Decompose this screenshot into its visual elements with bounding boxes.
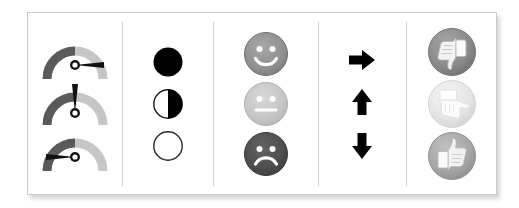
circle-full-icon	[151, 45, 185, 79]
column-arrows	[318, 13, 406, 194]
thumb-side[interactable]	[426, 78, 478, 130]
thumb-up[interactable]	[426, 130, 478, 182]
screenshot-stage	[0, 0, 519, 208]
column-thumbs	[406, 13, 498, 194]
column-faces	[213, 13, 318, 194]
thumb-down[interactable]	[426, 26, 478, 78]
thumb-down-icon	[426, 26, 478, 78]
arrow-down[interactable]	[349, 131, 375, 161]
circle-empty[interactable]	[151, 129, 185, 163]
column-gauges	[28, 13, 122, 194]
thumb-up-icon	[426, 130, 478, 182]
circle-half[interactable]	[151, 87, 185, 121]
gauge-needle-left-icon	[38, 121, 112, 179]
face-sad-icon	[242, 130, 290, 178]
circle-half-icon	[151, 87, 185, 121]
arrow-up[interactable]	[349, 87, 375, 117]
circle-empty-icon	[151, 129, 185, 163]
gauge-needle-left[interactable]	[38, 121, 112, 179]
face-happy-icon	[242, 30, 290, 78]
column-circles	[122, 13, 213, 194]
arrow-down-icon	[349, 131, 375, 161]
thumb-side-icon	[426, 78, 478, 130]
face-neutral[interactable]	[242, 80, 290, 128]
face-happy[interactable]	[242, 30, 290, 78]
arrow-right-icon	[347, 47, 377, 73]
circle-full[interactable]	[151, 45, 185, 79]
icon-set-panel	[27, 12, 497, 195]
arrow-right[interactable]	[347, 47, 377, 73]
face-sad[interactable]	[242, 130, 290, 178]
arrow-up-icon	[349, 87, 375, 117]
face-neutral-icon	[242, 80, 290, 128]
